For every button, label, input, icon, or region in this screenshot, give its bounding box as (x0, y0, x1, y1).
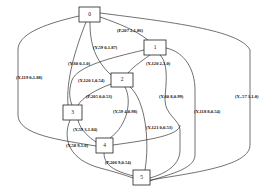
edges (18, 13, 250, 181)
edge-label: (Y,59 0,1.87) (93, 45, 118, 50)
edge-label: (P,207 2,1.86) (117, 28, 144, 33)
edge-label: (Y,118 8,0.54) (194, 109, 221, 114)
edge-label: (Y,60 0,1.0) (68, 61, 91, 66)
graph-diagram: 0 1 2 3 4 5 (P,207 2,1.86) (Y,59 0,1.87)… (0, 0, 275, 193)
edge-1-5-b (150, 48, 195, 181)
node-label: 1 (154, 44, 157, 50)
edge-label: (Y,119 0,1.88) (16, 75, 43, 80)
node-0[interactable]: 0 (79, 7, 100, 22)
edge-label: (Y,121 0,0.53) (146, 125, 173, 130)
node-2[interactable]: 2 (111, 73, 133, 87)
edge-label: (Y,120 1,0.54) (78, 78, 105, 83)
node-label: 0 (88, 11, 91, 17)
edge-label: (Y,59 3,1.84) (73, 127, 98, 132)
edge-2-5 (130, 87, 147, 170)
edge-label: (Y,60 8,0.99) (159, 94, 184, 99)
node-label: 3 (71, 109, 74, 115)
edge-label: (Y,120 2,1.0) (146, 61, 171, 66)
edge-label: (P,206 9,0.54) (105, 160, 132, 165)
edge-label: (Y,59 4,0.98) (113, 109, 138, 114)
node-1[interactable]: 1 (144, 40, 166, 55)
edge-label: (P,205 0,0.53) (86, 94, 113, 99)
edge-label: (Y,-57 3,1.0) (235, 94, 259, 99)
node-label: 4 (103, 142, 106, 148)
node-label: 5 (140, 174, 143, 180)
edge-1-5-a (150, 55, 180, 178)
node-5[interactable]: 5 (133, 170, 150, 185)
node-3[interactable]: 3 (63, 105, 82, 120)
node-4[interactable]: 4 (96, 138, 113, 153)
node-label: 2 (121, 76, 124, 82)
edge-label: (Y,58 9,1.0) (66, 143, 89, 148)
